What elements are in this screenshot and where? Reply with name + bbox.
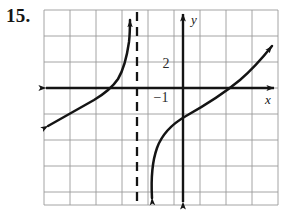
y-axis-label: y xyxy=(189,12,197,27)
x-tick-label-minus-one: −1 xyxy=(154,90,169,105)
x-axis-label: x xyxy=(264,92,271,107)
graph-figure: 2 −1 y x xyxy=(0,0,293,220)
y-tick-label-2: 2 xyxy=(163,56,170,71)
coordinate-plane-svg: 2 −1 y x xyxy=(0,0,293,220)
